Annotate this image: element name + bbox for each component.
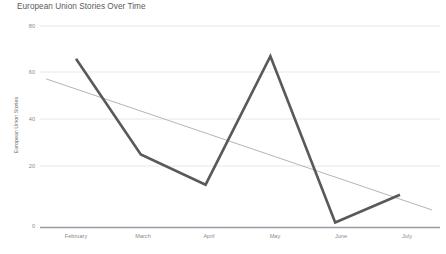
data-series-line — [76, 56, 400, 222]
line-chart: European Union Stories Over Time Europea… — [0, 0, 446, 254]
plot-area — [0, 0, 446, 254]
